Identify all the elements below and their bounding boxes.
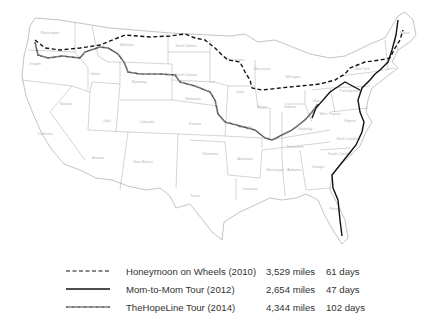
state-label: Texas — [190, 194, 200, 198]
state-label: South Dakota — [175, 73, 197, 77]
state-label: Iowa — [236, 90, 244, 94]
legend-miles: 2,654 miles — [266, 284, 326, 295]
state-label: New Mexico — [133, 160, 153, 164]
map-canvas: WashingtonOregonCaliforniaNevadaIdahoMon… — [0, 0, 434, 250]
legend-item-mom-to-mom: Mom-to-Mom Tour (2012) 2,654 miles 47 da… — [66, 280, 366, 298]
dotted-line-swatch-icon — [66, 302, 110, 312]
state-label: Kentucky — [298, 127, 313, 131]
legend: Honeymoon on Wheels (2010) 3,529 miles 6… — [66, 262, 366, 316]
legend-days: 47 days — [326, 284, 360, 295]
us-map: WashingtonOregonCaliforniaNevadaIdahoMon… — [0, 0, 434, 250]
state-label: Mississippi — [266, 168, 284, 172]
legend-days: 102 days — [326, 302, 365, 313]
state-label: Michigan — [286, 75, 300, 79]
state-label: California — [37, 132, 52, 136]
state-label: Colorado — [140, 120, 155, 124]
legend-days: 61 days — [326, 266, 360, 277]
state-label: Tennessee — [286, 145, 303, 149]
legend-name: Mom-to-Mom Tour (2012) — [126, 284, 266, 295]
state-label: Montana — [120, 43, 134, 47]
state-label: Alabama — [287, 168, 301, 172]
legend-name: Honeymoon on Wheels (2010) — [126, 266, 266, 277]
us-outline — [22, 12, 416, 244]
legend-item-thehopeline: TheHopeLine Tour (2014) 4,344 miles 102 … — [66, 298, 366, 316]
legend-name: TheHopeLine Tour (2014) — [126, 302, 266, 313]
state-label: Indiana — [284, 105, 296, 109]
state-label: North Carolina — [336, 137, 359, 141]
state-label: New York — [354, 67, 369, 71]
legend-item-honeymoon: Honeymoon on Wheels (2010) 3,529 miles 6… — [66, 262, 366, 280]
state-label: Utah — [103, 119, 111, 123]
state-label: Wyoming — [132, 80, 147, 84]
state-label: North Dakota — [175, 44, 196, 48]
legend-miles: 4,344 miles — [266, 302, 326, 313]
state-label: Illinois — [257, 105, 267, 109]
state-label: West Virginia — [319, 112, 340, 116]
state-label: Arkansas — [238, 157, 253, 161]
solid-line-swatch-icon — [66, 284, 110, 294]
state-label: Ohio — [312, 99, 320, 103]
state-label: Idaho — [91, 72, 100, 76]
state-label: Georgia — [312, 165, 325, 169]
legend-miles: 3,529 miles — [266, 266, 326, 277]
state-label: Nebraska — [185, 97, 200, 101]
state-label: Oklahoma — [202, 152, 218, 156]
state-label: Nevada — [60, 102, 72, 106]
state-label: Louisiana — [242, 187, 257, 191]
state-label: Virginia — [344, 119, 356, 123]
dashed-line-swatch-icon — [66, 266, 110, 276]
state-label: Arizona — [92, 156, 104, 160]
state-label: Wisconsin — [254, 67, 270, 71]
state-label: Oregon — [29, 62, 41, 66]
state-label: Kansas — [189, 122, 201, 126]
state-label: Washington — [41, 31, 60, 35]
state-label: Pennsylvania — [339, 89, 360, 93]
